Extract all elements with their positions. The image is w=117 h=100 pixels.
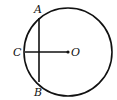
- label-c: C: [13, 46, 22, 59]
- label-b: B: [33, 86, 42, 99]
- label-a: A: [33, 3, 42, 16]
- label-o: O: [71, 46, 80, 59]
- circle-diagram: A B C O: [0, 0, 117, 100]
- center-point-o: [66, 50, 69, 53]
